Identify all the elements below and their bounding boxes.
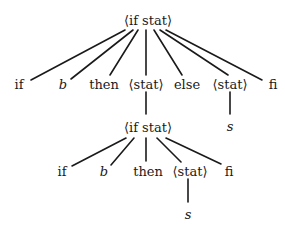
node-stat-then-branch: ⟨stat⟩ bbox=[128, 78, 163, 91]
node-else-s: s bbox=[227, 120, 234, 133]
edge-l2_ifstat-to-l3_stat bbox=[157, 138, 181, 162]
node-nested-fi-keyword: fi bbox=[225, 165, 234, 178]
node-then-keyword: then bbox=[89, 78, 119, 91]
tree-edges bbox=[0, 0, 285, 228]
node-root-if-stat: ⟨if stat⟩ bbox=[124, 14, 172, 27]
node-condition-b: b bbox=[59, 78, 67, 91]
node-fi-keyword: fi bbox=[269, 78, 278, 91]
node-nested-if-keyword: if bbox=[58, 165, 67, 178]
node-nested-s: s bbox=[185, 208, 192, 221]
parse-tree-diagram: ⟨if stat⟩ if b then ⟨stat⟩ else ⟨stat⟩ f… bbox=[0, 0, 285, 228]
edge-l2_ifstat-to-l3_b bbox=[111, 138, 134, 165]
node-nested-then-keyword: then bbox=[133, 165, 163, 178]
node-stat-else-branch: ⟨stat⟩ bbox=[212, 78, 247, 91]
node-if-keyword: if bbox=[15, 78, 24, 91]
edge-root-to-l1_stat2 bbox=[160, 30, 228, 75]
node-else-keyword: else bbox=[174, 78, 200, 91]
edge-l2_ifstat-to-l3_if bbox=[72, 138, 126, 166]
node-nested-if-stat: ⟨if stat⟩ bbox=[124, 121, 172, 134]
node-nested-condition-b: b bbox=[100, 165, 108, 178]
edge-l2_ifstat-to-l3_fi bbox=[166, 138, 221, 164]
node-nested-stat: ⟨stat⟩ bbox=[172, 165, 207, 178]
